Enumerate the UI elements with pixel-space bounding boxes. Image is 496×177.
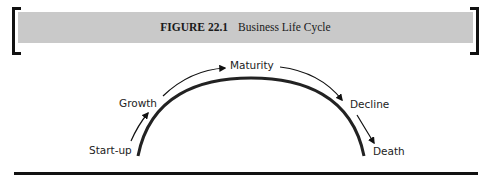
bottom-rule (14, 172, 478, 175)
stage-label-death: Death (373, 145, 405, 157)
stage-label-growth: Growth (119, 97, 157, 109)
stage-label-maturity: Maturity (230, 59, 274, 71)
stage-label-decline: Decline (350, 98, 389, 110)
life-cycle-diagram: Start-up Growth Maturity Decline Death (0, 0, 496, 177)
arrow-maturity-to-decline (280, 67, 342, 100)
stage-label-startup: Start-up (89, 144, 132, 156)
life-cycle-curve (138, 78, 364, 156)
arrow-startup-to-growth (131, 113, 148, 141)
